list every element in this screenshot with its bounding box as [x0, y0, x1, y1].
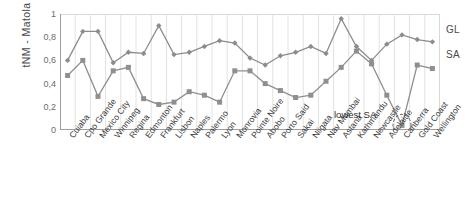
legend-item-gl: GL [446, 24, 460, 35]
legend-item-sa: SA [446, 49, 460, 60]
annotation-label-lowest-sa: lowest SA [334, 109, 376, 120]
chart-container: tNM - Matola 00,20,40,60,81 CuiabaCpo Gr… [0, 0, 465, 202]
x-axis-tick-group: CuiabaCpo GrandeMexico CityWinnipegRegin… [0, 0, 465, 202]
